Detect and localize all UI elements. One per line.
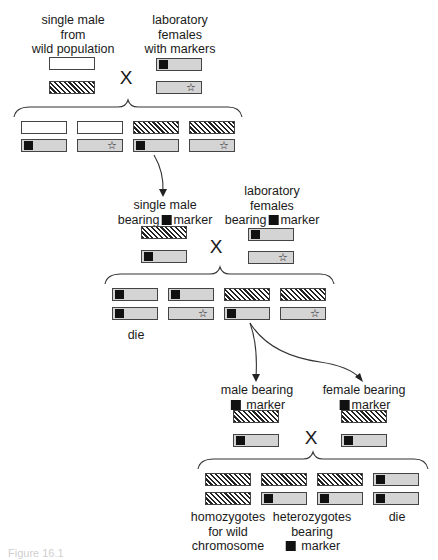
braces-and-arrows [0, 0, 438, 560]
